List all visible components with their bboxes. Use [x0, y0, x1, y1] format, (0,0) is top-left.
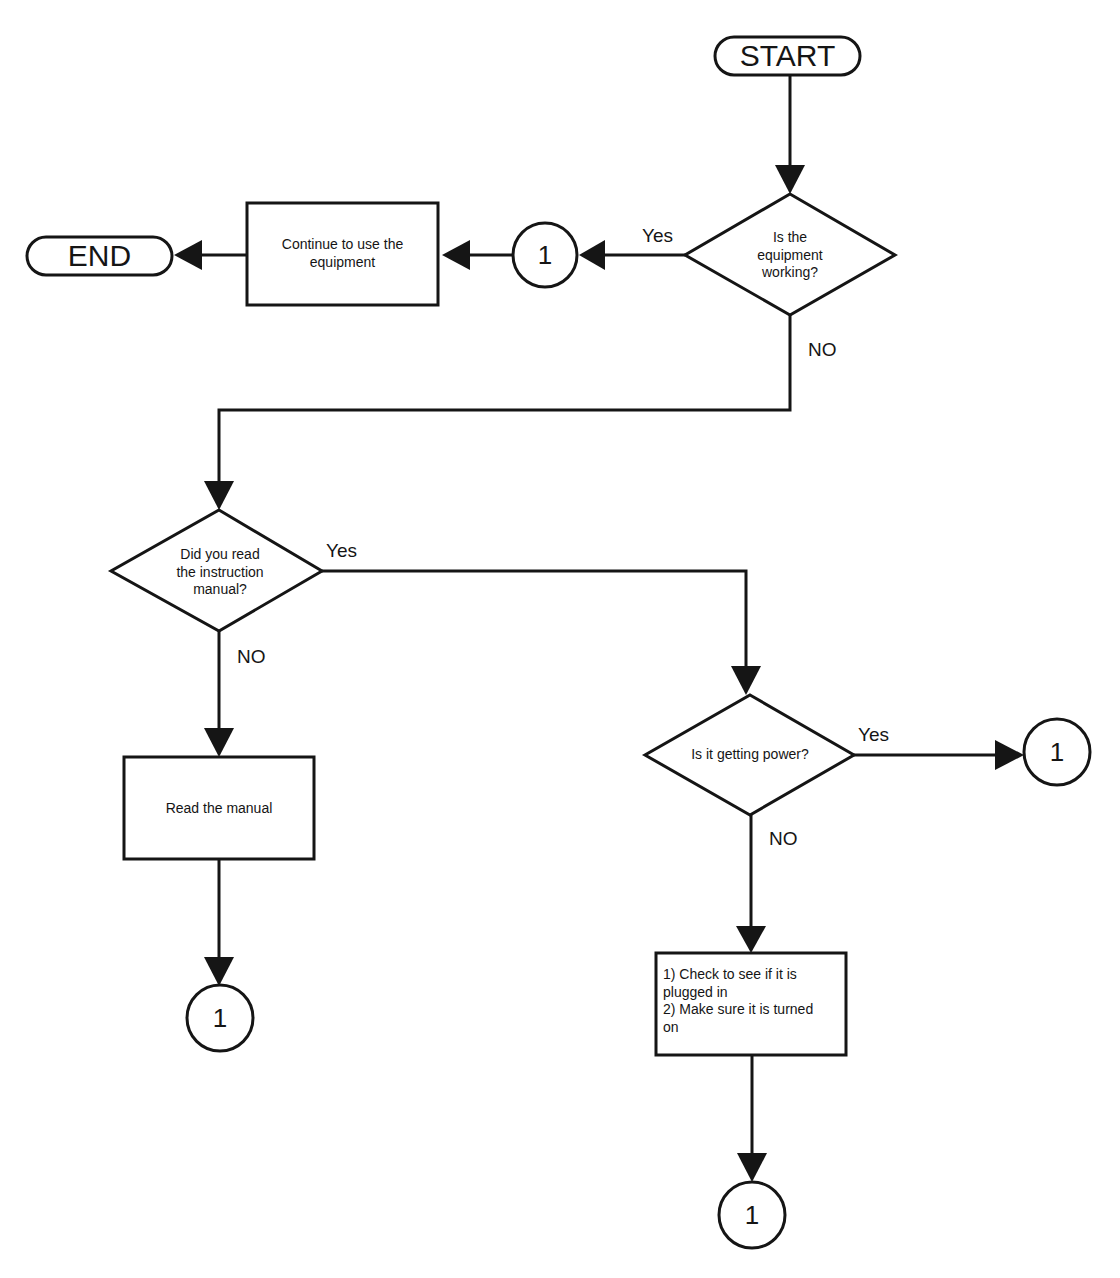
- edge-label-power-no: NO: [769, 827, 798, 851]
- decision-read-manual-label: Did you read the instruction manual?: [155, 546, 285, 599]
- label-line: plugged in: [663, 984, 843, 1002]
- arrowhead-left: [579, 240, 605, 270]
- connector-1-bottom-label: 1: [719, 1199, 785, 1232]
- label-line: on: [663, 1019, 843, 1037]
- label-line: 1) Check to see if it is: [663, 966, 843, 984]
- edge-label-working-no: NO: [808, 338, 837, 362]
- label-line: working?: [730, 264, 850, 282]
- edge-label-power-yes: Yes: [858, 723, 889, 747]
- label-line: manual?: [155, 581, 285, 599]
- edge-label-manual-no: NO: [237, 645, 266, 669]
- edge-label-manual-yes: Yes: [326, 539, 357, 563]
- arrowhead-left: [442, 240, 470, 270]
- arrowhead-down: [775, 165, 805, 194]
- edge-label-working-yes: Yes: [642, 224, 673, 248]
- label-line: 2) Make sure it is turned: [663, 1001, 843, 1019]
- arrowhead-down: [736, 926, 766, 953]
- start-label: START: [715, 37, 860, 75]
- arrowheads: [174, 165, 1024, 1182]
- decision-getting-power-label: Is it getting power?: [660, 746, 840, 764]
- label-line: equipment: [730, 247, 850, 265]
- process-check-power-label: 1) Check to see if it is plugged in 2) M…: [663, 966, 843, 1036]
- end-label: END: [27, 237, 172, 275]
- arrowhead-left: [174, 240, 202, 270]
- label-line: Did you read: [155, 546, 285, 564]
- flowchart-canvas: [0, 0, 1120, 1278]
- label-line: equipment: [247, 254, 438, 272]
- connector-1-top-label: 1: [513, 239, 577, 272]
- arrowhead-down: [204, 481, 234, 510]
- arrowhead-down: [731, 666, 761, 695]
- process-continue-label: Continue to use the equipment: [247, 236, 438, 271]
- label-line: Is the: [730, 229, 850, 247]
- connector-1-right-label: 1: [1024, 736, 1090, 769]
- label-line: Continue to use the: [247, 236, 438, 254]
- process-read-manual-label: Read the manual: [124, 800, 314, 818]
- label-line: the instruction: [155, 564, 285, 582]
- arrowhead-down: [204, 957, 234, 986]
- connector-1-left-label: 1: [187, 1002, 253, 1035]
- arrowhead-down: [737, 1153, 767, 1182]
- arrowhead-right: [995, 740, 1024, 770]
- arrowhead-down: [204, 728, 234, 757]
- decision-equipment-working-label: Is the equipment working?: [730, 229, 850, 282]
